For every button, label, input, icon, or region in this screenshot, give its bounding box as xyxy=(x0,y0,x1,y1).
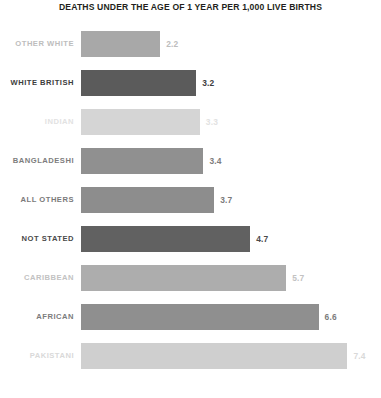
bar-row: OTHER WHITE2.2 xyxy=(0,31,381,57)
bar xyxy=(81,109,200,135)
category-label: AFRICAN xyxy=(36,304,74,330)
bar xyxy=(81,31,160,57)
bar xyxy=(81,265,286,291)
bar-row: INDIAN3.3 xyxy=(0,109,381,135)
bar-row: PAKISTANI7.4 xyxy=(0,343,381,369)
bar-row: BANGLADESHI3.4 xyxy=(0,148,381,174)
bar-value-label: 5.7 xyxy=(292,265,304,291)
category-label: OTHER WHITE xyxy=(15,31,74,57)
bar-value-label: 2.2 xyxy=(166,31,178,57)
category-label: INDIAN xyxy=(45,109,74,135)
bar xyxy=(81,187,214,213)
category-label: WHITE BRITISH xyxy=(11,70,74,96)
bar-value-label: 3.4 xyxy=(209,148,221,174)
bar-row: NOT STATED4.7 xyxy=(0,226,381,252)
bar-value-label: 6.6 xyxy=(325,304,337,330)
chart-title: DEATHS UNDER THE AGE OF 1 YEAR PER 1,000… xyxy=(0,2,381,13)
bar-row: AFRICAN6.6 xyxy=(0,304,381,330)
bar-value-label: 7.4 xyxy=(353,343,365,369)
bar-row: ALL OTHERS3.7 xyxy=(0,187,381,213)
bar xyxy=(81,226,250,252)
bar-row: CARIBBEAN5.7 xyxy=(0,265,381,291)
bar-value-label: 3.3 xyxy=(206,109,218,135)
category-label: CARIBBEAN xyxy=(24,265,74,291)
bar xyxy=(81,148,203,174)
bar xyxy=(81,343,347,369)
bar-value-label: 3.2 xyxy=(202,70,214,96)
plot-area: OTHER WHITE2.2WHITE BRITISH3.2INDIAN3.3B… xyxy=(0,22,381,398)
category-label: BANGLADESHI xyxy=(13,148,74,174)
bar-chart: DEATHS UNDER THE AGE OF 1 YEAR PER 1,000… xyxy=(0,0,381,398)
category-label: NOT STATED xyxy=(22,226,74,252)
bar-value-label: 4.7 xyxy=(256,226,268,252)
bar-value-label: 3.7 xyxy=(220,187,232,213)
category-label: PAKISTANI xyxy=(30,343,74,369)
bar xyxy=(81,304,319,330)
category-label: ALL OTHERS xyxy=(21,187,74,213)
bar xyxy=(81,70,196,96)
bar-row: WHITE BRITISH3.2 xyxy=(0,70,381,96)
